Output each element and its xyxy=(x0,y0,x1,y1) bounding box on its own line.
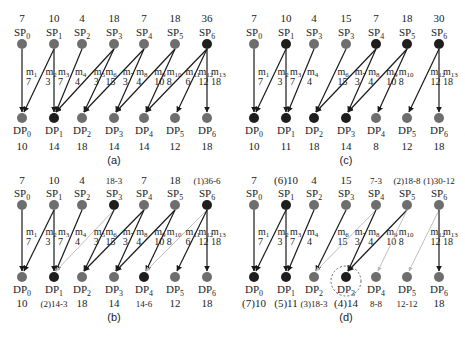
edge-weight-m9: 10 xyxy=(386,236,396,247)
sp-node-5 xyxy=(170,200,180,210)
sp-label-3: SP3 xyxy=(106,26,122,41)
edge-weight-m4: 4 xyxy=(307,236,312,247)
dp-value-5: 12-12 xyxy=(397,299,418,309)
edge-weight-m6: 15 xyxy=(337,76,347,87)
sp-value-2: 4 xyxy=(311,12,317,24)
sp-value-0: 7 xyxy=(19,12,25,24)
sp-value-5: 18 xyxy=(402,12,414,24)
dp-value-1: 11 xyxy=(281,140,292,152)
dp-value-0: 10 xyxy=(249,140,261,152)
dp-value-2: (3)18-3 xyxy=(301,299,328,309)
sp-value-1: 10 xyxy=(281,12,293,24)
sp-node-2 xyxy=(309,39,319,49)
dp-label-1: DP1 xyxy=(45,283,63,298)
sp-node-0 xyxy=(249,39,259,49)
panel-b: m17m23m37m44m53m615m73m84m910m108m116m12… xyxy=(13,174,226,323)
dp-value-6: 18 xyxy=(434,140,446,152)
sp-node-0 xyxy=(17,200,27,210)
dp-node-3 xyxy=(341,272,351,282)
dp-label-6: DP6 xyxy=(198,124,216,139)
dp-node-5 xyxy=(402,113,412,123)
sp-node-5 xyxy=(402,39,412,49)
edge-weight-m10: 8 xyxy=(399,236,404,247)
dp-node-6 xyxy=(202,272,212,282)
dp-node-3 xyxy=(109,113,119,123)
panel-caption-a: (a) xyxy=(107,154,120,166)
sp-node-6 xyxy=(202,39,212,49)
sp-node-2 xyxy=(309,200,319,210)
dp-value-4: 8-8 xyxy=(370,299,382,309)
sp-value-0: 7 xyxy=(251,12,257,24)
edge-weight-m9: 10 xyxy=(154,76,164,87)
sp-label-0: SP0 xyxy=(14,26,30,41)
dp-label-2: DP2 xyxy=(305,283,323,298)
sp-node-3 xyxy=(109,39,119,49)
panel-caption-b: (b) xyxy=(107,311,120,323)
sp-node-1 xyxy=(281,39,291,49)
dp-label-5: DP5 xyxy=(398,124,416,139)
sp-value-4: 7 xyxy=(373,12,379,24)
sp-node-1 xyxy=(49,200,59,210)
dp-node-6 xyxy=(434,113,444,123)
sp-label-0: SP0 xyxy=(246,26,262,41)
sp-label-6: SP6 xyxy=(199,187,215,202)
sp-node-3 xyxy=(341,39,351,49)
sp-value-3: 18 xyxy=(109,12,121,24)
dp-node-4 xyxy=(139,113,149,123)
sp-value-0: 7 xyxy=(251,174,257,186)
sp-label-3: SP3 xyxy=(106,187,122,202)
edge-weight-m7: 3 xyxy=(123,76,128,87)
sp-node-3 xyxy=(341,200,351,210)
dp-label-3: DP3 xyxy=(105,283,123,298)
dp-label-0: DP0 xyxy=(13,124,31,139)
dp-value-6: 18 xyxy=(202,297,214,309)
dp-node-0 xyxy=(249,113,259,123)
dp-value-1: (5)11 xyxy=(274,297,297,310)
sp-value-3: 18-3 xyxy=(106,176,123,186)
sp-label-4: SP4 xyxy=(368,187,384,202)
dp-value-1: 14 xyxy=(49,140,61,152)
dp-label-4: DP4 xyxy=(135,124,153,139)
sp-value-4: 7 xyxy=(141,12,147,24)
dp-label-5: DP5 xyxy=(398,283,416,298)
panel-caption-c: (c) xyxy=(340,154,353,166)
edge-weight-m3: 7 xyxy=(290,236,295,247)
dp-label-3: DP3 xyxy=(337,124,355,139)
edge-weight-m2: 3 xyxy=(45,236,50,247)
dp-node-6 xyxy=(202,113,212,123)
sp-node-0 xyxy=(17,39,27,49)
edge-weight-m1: 7 xyxy=(26,236,31,247)
dp-label-6: DP6 xyxy=(198,283,216,298)
sp-node-5 xyxy=(170,39,180,49)
dp-value-0: 10 xyxy=(17,140,29,152)
sp-value-2: 4 xyxy=(79,12,85,24)
figure-canvas: m17m23m37m44m53m615m73m84m910m108m116m12… xyxy=(0,0,465,338)
dp-label-3: DP3 xyxy=(337,283,355,298)
dp-value-4: 14 xyxy=(139,140,151,152)
sp-label-3: SP3 xyxy=(338,187,354,202)
sp-value-1: (6)10 xyxy=(274,174,298,187)
edge-weight-m1: 7 xyxy=(258,236,263,247)
sp-value-6: 30 xyxy=(434,12,446,24)
dp-value-2: 18 xyxy=(309,140,321,152)
edge-weight-m13: 18 xyxy=(443,76,453,87)
edge-weight-m9: 10 xyxy=(386,76,396,87)
dp-node-5 xyxy=(402,272,412,282)
dp-node-1 xyxy=(281,272,291,282)
dp-value-5: 12 xyxy=(170,297,181,309)
dp-node-1 xyxy=(281,113,291,123)
sp-node-2 xyxy=(77,39,87,49)
sp-node-6 xyxy=(202,200,212,210)
sp-label-6: SP6 xyxy=(431,26,447,41)
sp-label-4: SP4 xyxy=(136,187,152,202)
sp-label-2: SP2 xyxy=(306,187,322,202)
edge-weight-m10: 8 xyxy=(399,76,404,87)
dp-node-3 xyxy=(109,272,119,282)
dp-node-1 xyxy=(49,113,59,123)
dp-label-1: DP1 xyxy=(277,283,295,298)
edge-weight-m4: 4 xyxy=(307,76,312,87)
dp-node-4 xyxy=(371,113,381,123)
edge-weight-m9: 10 xyxy=(154,236,164,247)
dp-label-3: DP3 xyxy=(105,124,123,139)
dp-node-4 xyxy=(139,272,149,282)
